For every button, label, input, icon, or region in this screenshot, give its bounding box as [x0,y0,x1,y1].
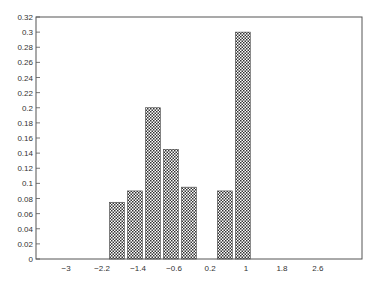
x-tick-label: −3 [62,264,72,273]
plot-frame [36,17,362,259]
y-tick-label: 0.08 [17,195,33,204]
x-tick-label: −1.4 [130,264,146,273]
histogram-bar [163,149,178,259]
x-tick-label: 2.6 [312,264,324,273]
histogram-bar [217,191,232,259]
x-tick-label: −2.2 [94,264,110,273]
y-tick-label: 0.32 [17,13,33,22]
histogram-bar [235,32,250,259]
y-tick-label: 0.28 [17,43,33,52]
y-tick-label: 0.3 [22,28,34,37]
y-tick-label: 0.04 [17,225,33,234]
y-tick-label: 0.02 [17,240,33,249]
histogram-chart: 00.020.040.060.080.10.120.140.160.180.20… [0,0,376,282]
y-axis: 00.020.040.060.080.10.120.140.160.180.20… [17,13,40,264]
y-tick-label: 0.16 [17,134,33,143]
histogram-bar [110,202,125,259]
y-tick-label: 0 [29,255,34,264]
histogram-bar [145,108,160,259]
y-tick-label: 0.06 [17,210,33,219]
x-tick-label: 1 [244,264,249,273]
x-axis: −3−2.2−1.4−0.60.211.82.6 [62,264,324,273]
histogram-bar [128,191,143,259]
x-tick-label: −0.6 [166,264,182,273]
y-tick-label: 0.12 [17,164,33,173]
y-tick-label: 0.26 [17,58,33,67]
y-tick-label: 0.1 [22,179,34,188]
histogram-bar [181,187,196,259]
y-tick-label: 0.18 [17,119,33,128]
y-tick-label: 0.22 [17,89,33,98]
x-tick-label: 1.8 [276,264,288,273]
y-tick-label: 0.24 [17,74,33,83]
x-tick-label: 0.2 [204,264,216,273]
y-tick-label: 0.14 [17,149,33,158]
bar-group [110,32,251,259]
y-tick-label: 0.2 [22,104,34,113]
